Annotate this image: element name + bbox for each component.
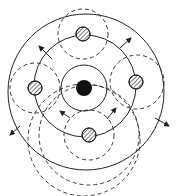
center-particle (76, 80, 92, 96)
arrow-icon (39, 46, 52, 59)
arrow-icon (120, 38, 131, 48)
hatched-particle-left (28, 81, 42, 95)
center-particle-dot (76, 80, 92, 96)
arrow-icon (107, 108, 116, 119)
hatched-particle-bottom (82, 128, 96, 142)
arrow-icon (60, 111, 70, 118)
hatched-particle-right (129, 75, 143, 89)
concentric-circles-diagram: Concentric circles diagram with central … (0, 0, 178, 196)
diagram-svg (0, 0, 178, 196)
hatched-particle-top (76, 27, 90, 41)
